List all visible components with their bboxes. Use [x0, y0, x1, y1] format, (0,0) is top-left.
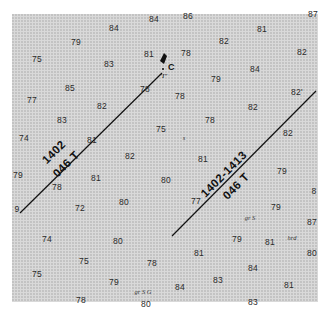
- depth-sounding: 75: [32, 269, 42, 279]
- depth-sounding: 79: [271, 202, 281, 212]
- depth-sounding: 84: [109, 23, 119, 33]
- depth-sounding: 79: [71, 37, 81, 47]
- depth-sounding: 77: [191, 196, 201, 206]
- depth-sounding: 84: [248, 263, 258, 273]
- marker-label: C: [168, 62, 175, 72]
- depth-sounding: 78: [140, 84, 150, 94]
- depth-sounding: 80: [113, 236, 123, 246]
- depth-sounding: 81: [257, 24, 267, 34]
- depth-sounding: 78: [52, 182, 62, 192]
- buoy-marker-icon: [160, 53, 167, 64]
- depth-sounding: 85: [65, 83, 75, 93]
- depth-sounding: 82: [297, 47, 307, 57]
- depth-sounding: 80: [141, 299, 151, 309]
- depth-sounding: 72: [75, 203, 85, 213]
- depth-sounding: 87: [307, 217, 317, 227]
- seabed-note: hrd: [288, 234, 297, 241]
- depth-sounding: 75: [32, 54, 42, 64]
- depth-sounding: 81: [91, 173, 101, 183]
- depth-sounding: 77: [27, 95, 37, 105]
- depth-sounding: 82: [219, 36, 229, 46]
- depth-sounding: 81: [194, 248, 204, 258]
- depth-sounding: 79: [277, 166, 287, 176]
- depth-sounding: 84: [175, 282, 185, 292]
- depth-sounding: 86: [183, 11, 193, 21]
- depth-sounding: 78: [181, 48, 191, 58]
- depth-sounding: 9: [14, 204, 19, 214]
- depth-sounding: 80: [307, 248, 317, 258]
- depth-sounding: 82: [125, 151, 135, 161]
- seabed-note: s: [183, 134, 186, 141]
- depth-sounding: 78: [205, 115, 215, 125]
- marker-sublabel: "I": [159, 72, 167, 80]
- depth-sounding: 80: [161, 175, 171, 185]
- depth-sounding: 81: [265, 237, 275, 247]
- depth-sounding: 82: [283, 128, 293, 138]
- depth-sounding: 78: [147, 258, 157, 268]
- depth-sounding: 79: [232, 234, 242, 244]
- depth-sounding: 79: [13, 170, 23, 180]
- depth-sounding: 82: [248, 102, 258, 112]
- nautical-chart: 848486877981827583817882798485787882'778…: [0, 0, 327, 315]
- depth-sounding: 82: [97, 101, 107, 111]
- depth-sounding: 82': [291, 87, 303, 97]
- depth-sounding: 74: [42, 234, 52, 244]
- seabed-note: gr S: [245, 214, 256, 221]
- marker-dot-icon: [162, 68, 164, 70]
- depth-sounding: 83: [57, 115, 67, 125]
- depth-sounding: 74: [19, 133, 29, 143]
- depth-sounding: 84: [250, 64, 260, 74]
- depth-sounding: 81: [144, 49, 154, 59]
- depth-sounding: 83: [248, 297, 258, 307]
- depth-sounding: 83: [104, 59, 114, 69]
- depth-sounding: 79: [109, 277, 119, 287]
- seabed-note: gr S G: [135, 288, 152, 295]
- depth-sounding: 81: [198, 154, 208, 164]
- depth-sounding: 75: [156, 124, 166, 134]
- depth-sounding: 78: [175, 91, 185, 101]
- depth-sounding: 78: [76, 295, 86, 305]
- depth-sounding: 81: [284, 280, 294, 290]
- depth-sounding: 84: [149, 14, 159, 24]
- depth-sounding: 79: [211, 74, 221, 84]
- depth-sounding: 75: [79, 256, 89, 266]
- depth-sounding: 87: [308, 9, 318, 19]
- depth-sounding: 83: [213, 275, 223, 285]
- depth-sounding: 80: [119, 197, 129, 207]
- depth-sounding: 81: [87, 135, 97, 145]
- depth-sounding: 8: [311, 186, 316, 196]
